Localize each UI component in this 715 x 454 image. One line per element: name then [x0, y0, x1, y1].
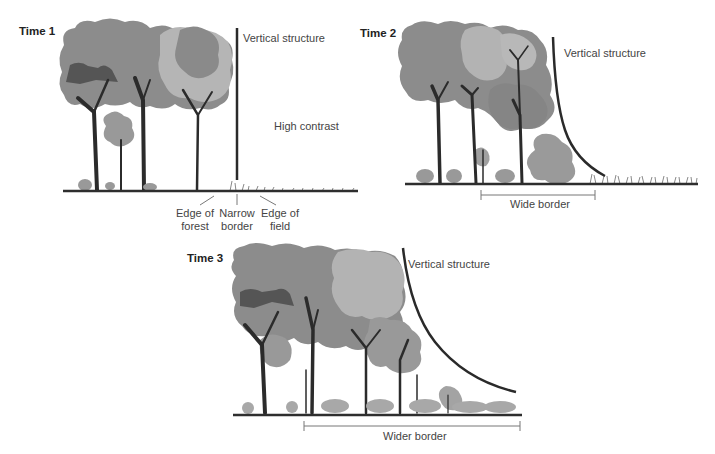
canopy-shapes: [398, 21, 575, 185]
understory-shapes: [242, 399, 516, 414]
grass-field: [590, 174, 697, 184]
wider-border-label: Wider border: [383, 430, 447, 442]
canopy-shapes: [59, 19, 233, 147]
panel-time-1: Time 1: [0, 0, 370, 220]
vertical-structure-label: Vertical structure: [408, 258, 490, 270]
grass-field: [230, 181, 354, 191]
shrub-shapes: [416, 169, 515, 183]
vertical-structure-label: Vertical structure: [564, 47, 646, 59]
vertical-structure-label: Vertical structure: [243, 32, 325, 44]
panel-time-3: Time 3: [200, 220, 540, 454]
time-3-forest-illustration: [200, 220, 540, 454]
panel-time-2: Time 2: [350, 0, 715, 220]
time-2-forest-illustration: [350, 0, 715, 220]
wide-border-label: Wide border: [510, 198, 570, 210]
high-contrast-label: High contrast: [274, 120, 339, 132]
